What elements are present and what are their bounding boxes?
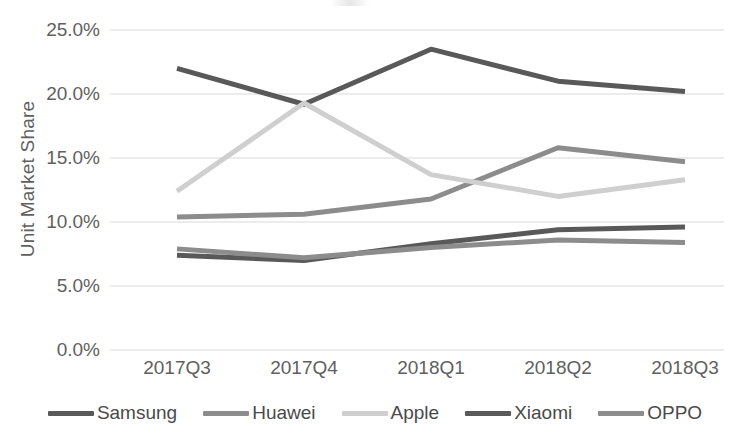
x-axis-tick-labels: 2017Q32017Q42018Q12018Q22018Q3: [110, 357, 724, 385]
y-tick-label: 5.0%: [22, 276, 100, 295]
legend-swatch-icon: [203, 411, 249, 416]
y-tick-label: 20.0%: [22, 84, 100, 103]
y-axis-tick-labels: 25.0%20.0%15.0%10.0%5.0%0.0%: [22, 0, 100, 446]
legend-label: Xiaomi: [514, 402, 572, 424]
legend-item-huawei[interactable]: Huawei: [203, 402, 315, 424]
chart-legend: SamsungHuaweiAppleXiaomiOPPO: [0, 402, 750, 424]
y-tick-label: 0.0%: [22, 340, 100, 359]
legend-swatch-icon: [465, 411, 511, 416]
x-tick-label: 2017Q4: [244, 357, 364, 379]
line-chart: Unit Market Share 25.0%20.0%15.0%10.0%5.…: [0, 0, 750, 446]
legend-label: Samsung: [97, 402, 177, 424]
series-line-apple[interactable]: [177, 103, 685, 196]
legend-label: OPPO: [647, 402, 702, 424]
series-line-samsung[interactable]: [177, 49, 685, 104]
legend-swatch-icon: [48, 411, 94, 416]
series-line-huawei[interactable]: [177, 148, 685, 217]
y-tick-label: 10.0%: [22, 212, 100, 231]
series-lines: [110, 30, 724, 350]
legend-swatch-icon: [342, 411, 388, 416]
x-tick-label: 2018Q1: [371, 357, 491, 379]
x-tick-label: 2018Q3: [625, 357, 745, 379]
chart-title-remnant: [330, 0, 370, 6]
x-tick-label: 2018Q2: [498, 357, 618, 379]
legend-item-xiaomi[interactable]: Xiaomi: [465, 402, 572, 424]
legend-label: Huawei: [252, 402, 315, 424]
legend-swatch-icon: [598, 411, 644, 416]
legend-item-apple[interactable]: Apple: [342, 402, 440, 424]
x-tick-label: 2017Q3: [117, 357, 237, 379]
y-tick-label: 15.0%: [22, 148, 100, 167]
legend-label: Apple: [391, 402, 440, 424]
legend-item-oppo[interactable]: OPPO: [598, 402, 702, 424]
legend-item-samsung[interactable]: Samsung: [48, 402, 177, 424]
plot-area: [110, 30, 724, 350]
y-tick-label: 25.0%: [22, 20, 100, 39]
